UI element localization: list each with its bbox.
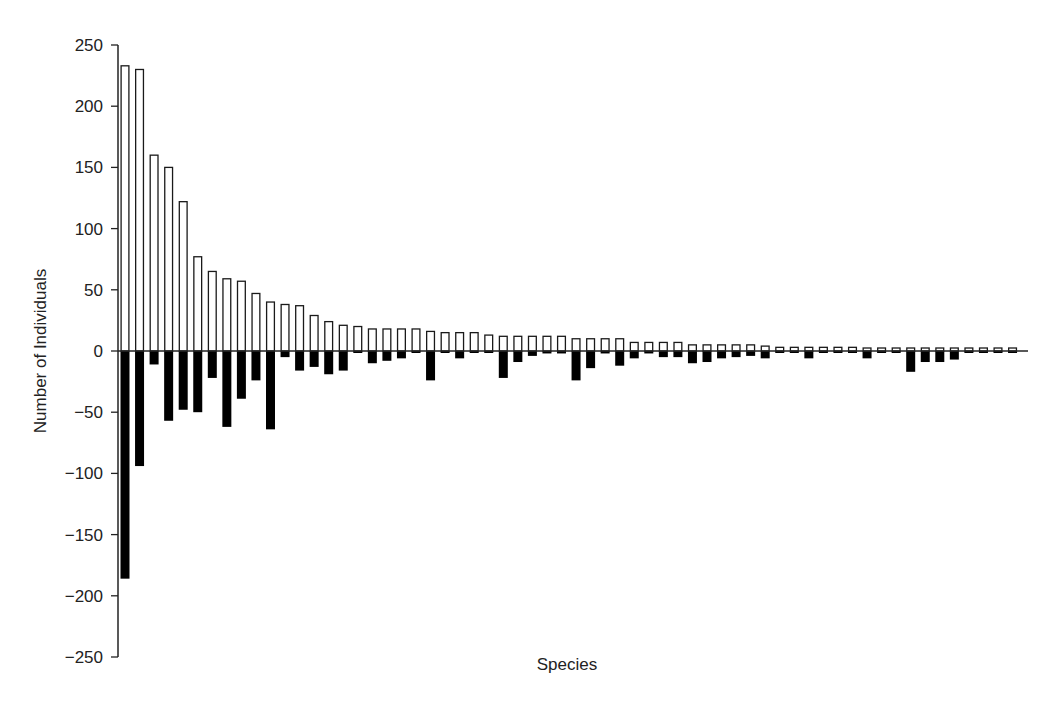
negative-bar (804, 351, 813, 358)
positive-bar (456, 333, 464, 351)
positive-bar (296, 306, 304, 351)
positive-bar (718, 345, 726, 351)
y-tick-label: 100 (75, 220, 103, 239)
positive-bar (325, 322, 333, 351)
positive-bar (383, 329, 391, 351)
negative-bar (324, 351, 333, 374)
positive-bar (427, 331, 435, 351)
negative-bar (906, 351, 915, 372)
negative-bar (164, 351, 173, 421)
positive-bar (121, 66, 129, 351)
positive-bar (267, 302, 275, 351)
y-tick-label: 200 (75, 97, 103, 116)
positive-bar (616, 339, 624, 351)
negative-bar (673, 351, 682, 357)
positive-bar (165, 167, 173, 351)
negative-bar (659, 351, 668, 357)
y-tick-label: −200 (65, 587, 103, 606)
negative-bar (222, 351, 231, 427)
positive-bar (252, 293, 260, 351)
negative-bar (193, 351, 202, 412)
negative-bar (950, 351, 959, 360)
positive-bar (339, 325, 347, 351)
bar-chart: 250200150100500−50−100−150−200−250 Speci… (0, 0, 1057, 707)
negative-bar (150, 351, 159, 364)
positive-bar (150, 155, 158, 351)
y-axis-title: Number of Individuals (31, 269, 50, 433)
negative-bar (121, 351, 130, 579)
y-tick-label: −250 (65, 648, 103, 667)
negative-bar (921, 351, 930, 362)
negative-bar (935, 351, 944, 362)
negative-bar (746, 351, 755, 356)
negative-bar (528, 351, 537, 356)
negative-bar (310, 351, 319, 367)
bars (121, 66, 1018, 579)
positive-bar (630, 342, 638, 351)
positive-bar (529, 336, 537, 351)
positive-bar (587, 339, 595, 351)
negative-bar (266, 351, 275, 429)
positive-bar (514, 336, 522, 351)
y-tick-label: −100 (65, 464, 103, 483)
negative-bar (703, 351, 712, 362)
positive-bar (703, 345, 711, 351)
positive-bar (281, 304, 289, 351)
negative-bar (732, 351, 741, 357)
x-axis-title: Species (537, 655, 597, 674)
y-tick-label: 0 (94, 342, 103, 361)
negative-bar (397, 351, 406, 358)
positive-bar (179, 202, 187, 351)
negative-bar (426, 351, 435, 380)
negative-bar (499, 351, 508, 378)
positive-bar (223, 279, 231, 351)
positive-bar (499, 336, 507, 351)
negative-bar (630, 351, 639, 358)
negative-bar (382, 351, 391, 361)
negative-bar (135, 351, 144, 466)
y-tick-label: −50 (74, 403, 103, 422)
negative-bar (717, 351, 726, 358)
negative-bar (863, 351, 872, 358)
positive-bar (761, 346, 769, 351)
negative-bar (513, 351, 522, 362)
positive-bar (470, 333, 478, 351)
positive-bar (368, 329, 376, 351)
negative-bar (281, 351, 290, 357)
positive-bar (689, 345, 697, 351)
negative-bar (295, 351, 304, 371)
positive-bar (674, 342, 682, 351)
positive-bar (601, 339, 609, 351)
positive-bar (747, 345, 755, 351)
negative-bar (688, 351, 697, 363)
positive-bar (441, 333, 449, 351)
negative-bar (251, 351, 260, 380)
positive-bar (485, 335, 493, 351)
negative-bar (339, 351, 348, 371)
positive-bar (543, 336, 551, 351)
positive-bar (558, 336, 566, 351)
positive-bar (208, 271, 216, 351)
negative-bar (572, 351, 581, 380)
y-axis-ticks: 250200150100500−50−100−150−200−250 (65, 36, 118, 667)
negative-bar (368, 351, 377, 363)
positive-bar (310, 316, 318, 351)
negative-bar (237, 351, 246, 399)
positive-bar (645, 342, 653, 351)
positive-bar (572, 339, 580, 351)
negative-bar (455, 351, 464, 358)
negative-bar (615, 351, 624, 366)
y-tick-label: 150 (75, 158, 103, 177)
negative-bar (586, 351, 595, 368)
positive-bar (732, 345, 740, 351)
y-tick-label: −150 (65, 526, 103, 545)
positive-bar (659, 342, 667, 351)
positive-bar (194, 257, 202, 351)
y-tick-label: 250 (75, 36, 103, 55)
positive-bar (238, 281, 246, 351)
positive-bar (398, 329, 406, 351)
positive-bar (354, 327, 362, 351)
y-tick-label: 50 (84, 281, 103, 300)
positive-bar (412, 329, 420, 351)
negative-bar (179, 351, 188, 410)
